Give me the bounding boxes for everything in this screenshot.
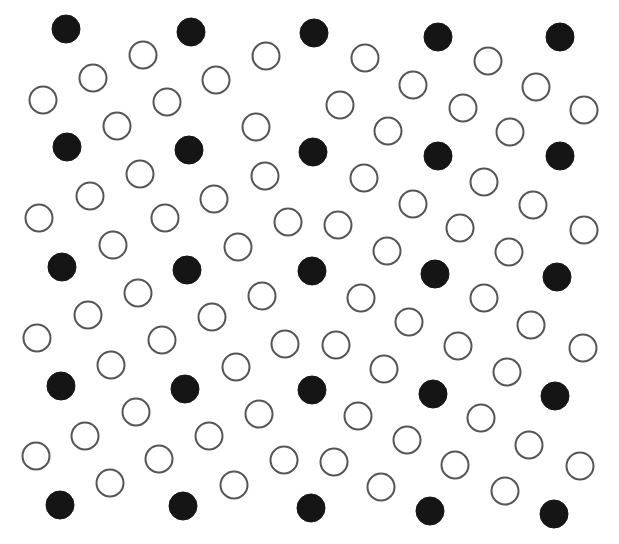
open-circle: [519, 191, 548, 220]
open-circle: [470, 168, 499, 197]
open-circle: [370, 355, 399, 384]
filled-circle: [421, 260, 450, 289]
open-circle: [124, 279, 153, 308]
open-circle: [491, 477, 520, 506]
open-circle: [493, 358, 522, 387]
open-circle: [224, 233, 253, 262]
open-circle: [350, 164, 379, 193]
filled-circle: [169, 492, 198, 521]
open-circle: [252, 42, 281, 71]
open-circle: [444, 332, 473, 361]
open-circle: [99, 231, 128, 260]
filled-circle: [298, 257, 327, 286]
filled-circle: [416, 497, 445, 526]
open-circle: [399, 71, 428, 100]
open-circle: [495, 238, 524, 267]
open-circle: [399, 190, 428, 219]
open-circle: [570, 96, 599, 125]
open-circle: [467, 404, 496, 433]
open-circle: [248, 282, 277, 311]
open-circle: [496, 118, 525, 147]
open-circle: [242, 113, 271, 142]
open-circle: [198, 303, 227, 332]
open-circle: [373, 237, 402, 266]
open-circle: [151, 204, 180, 233]
open-circle: [566, 452, 595, 481]
open-circle: [145, 445, 174, 474]
filled-circle: [540, 500, 569, 529]
open-circle: [569, 334, 598, 363]
open-circle: [202, 66, 231, 95]
open-circle: [515, 431, 544, 460]
filled-circle: [300, 19, 329, 48]
open-circle: [446, 214, 475, 243]
filled-circle: [47, 372, 76, 401]
open-circle: [570, 216, 599, 245]
open-circle: [367, 473, 396, 502]
open-circle: [320, 448, 349, 477]
open-circle: [148, 326, 177, 355]
open-circle: [195, 422, 224, 451]
open-circle: [74, 301, 103, 330]
filled-circle: [541, 382, 570, 411]
filled-circle: [424, 23, 453, 52]
filled-circle: [299, 138, 328, 167]
open-circle: [374, 117, 403, 146]
open-circle: [103, 112, 132, 141]
filled-circle: [175, 136, 204, 165]
open-circle: [395, 308, 424, 337]
open-circle: [474, 47, 503, 76]
open-circle: [347, 284, 376, 313]
filled-circle: [53, 133, 82, 162]
open-circle: [324, 211, 353, 240]
filled-circle: [46, 491, 75, 520]
open-circle: [25, 204, 54, 233]
open-circle: [126, 160, 155, 189]
open-circle: [129, 41, 158, 70]
open-circle: [271, 330, 300, 359]
open-circle: [220, 471, 249, 500]
filled-circle: [546, 142, 575, 171]
filled-circle: [52, 15, 81, 44]
filled-circle: [171, 375, 200, 404]
open-circle: [22, 442, 51, 471]
open-circle: [76, 182, 105, 211]
open-circle: [449, 94, 478, 123]
open-circle: [222, 353, 251, 382]
open-circle: [153, 88, 182, 117]
open-circle: [274, 208, 303, 237]
open-circle: [344, 402, 373, 431]
filled-circle: [424, 142, 453, 171]
filled-circle: [297, 494, 326, 523]
filled-circle: [173, 256, 202, 285]
open-circle: [245, 400, 274, 429]
open-circle: [351, 44, 380, 73]
filled-circle: [543, 263, 572, 292]
open-circle: [441, 451, 470, 480]
open-circle: [71, 422, 100, 451]
filled-circle: [48, 253, 77, 282]
open-circle: [96, 469, 125, 498]
open-circle: [522, 73, 551, 102]
dot-pattern-diagram: [0, 0, 619, 544]
open-circle: [122, 398, 151, 427]
open-circle: [79, 64, 108, 93]
open-circle: [322, 331, 351, 360]
open-circle: [326, 91, 355, 120]
open-circle: [251, 162, 280, 191]
filled-circle: [177, 18, 206, 47]
open-circle: [29, 86, 58, 115]
open-circle: [200, 185, 229, 214]
filled-circle: [298, 376, 327, 405]
open-circle: [393, 426, 422, 455]
open-circle: [517, 311, 546, 340]
filled-circle: [419, 380, 448, 409]
open-circle: [97, 351, 126, 380]
open-circle: [23, 324, 52, 353]
open-circle: [470, 284, 499, 313]
filled-circle: [546, 23, 575, 52]
open-circle: [270, 446, 299, 475]
